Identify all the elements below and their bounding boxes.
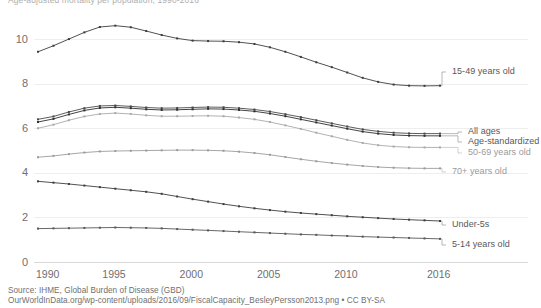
data-point[interactable] <box>114 226 116 228</box>
data-point[interactable] <box>253 152 255 154</box>
data-point[interactable] <box>362 165 364 167</box>
data-point[interactable] <box>362 142 364 144</box>
data-point[interactable] <box>176 149 178 151</box>
data-point[interactable] <box>83 109 85 111</box>
data-point[interactable] <box>114 106 116 108</box>
data-point[interactable] <box>284 113 286 115</box>
data-point[interactable] <box>37 228 39 230</box>
data-point[interactable] <box>408 237 410 239</box>
data-point[interactable] <box>362 131 364 133</box>
data-point[interactable] <box>68 119 70 121</box>
data-point[interactable] <box>130 150 132 152</box>
data-point[interactable] <box>253 109 255 111</box>
data-point[interactable] <box>37 156 39 158</box>
data-point[interactable] <box>68 111 70 113</box>
data-point[interactable] <box>99 150 101 152</box>
data-point[interactable] <box>114 188 116 190</box>
data-point[interactable] <box>83 115 85 117</box>
data-point[interactable] <box>83 227 85 229</box>
data-point[interactable] <box>408 85 410 87</box>
data-point[interactable] <box>207 229 209 231</box>
data-point[interactable] <box>145 30 147 32</box>
data-point[interactable] <box>315 234 317 236</box>
data-point[interactable] <box>424 167 426 169</box>
data-point[interactable] <box>253 43 255 45</box>
data-point[interactable] <box>408 132 410 134</box>
data-point[interactable] <box>269 111 271 113</box>
data-point[interactable] <box>192 229 194 231</box>
data-point[interactable] <box>424 135 426 137</box>
data-point[interactable] <box>253 110 255 112</box>
data-point[interactable] <box>99 105 101 107</box>
data-point[interactable] <box>377 81 379 83</box>
data-point[interactable] <box>238 41 240 43</box>
data-point[interactable] <box>207 40 209 42</box>
data-point[interactable] <box>68 227 70 229</box>
data-point[interactable] <box>377 217 379 219</box>
data-point[interactable] <box>192 115 194 117</box>
data-point[interactable] <box>393 218 395 220</box>
data-point[interactable] <box>114 25 116 27</box>
data-point[interactable] <box>331 122 333 124</box>
series-line[interactable] <box>38 227 440 238</box>
data-point[interactable] <box>300 128 302 130</box>
data-point[interactable] <box>37 127 39 129</box>
data-point[interactable] <box>315 61 317 63</box>
data-point[interactable] <box>439 167 441 169</box>
series-label[interactable]: 5-14 years old <box>452 239 510 249</box>
data-point[interactable] <box>377 130 379 132</box>
data-point[interactable] <box>346 128 348 130</box>
data-point[interactable] <box>192 108 194 110</box>
data-point[interactable] <box>393 134 395 136</box>
data-point[interactable] <box>223 230 225 232</box>
data-point[interactable] <box>145 150 147 152</box>
data-point[interactable] <box>284 156 286 158</box>
data-point[interactable] <box>238 109 240 111</box>
data-point[interactable] <box>207 115 209 117</box>
data-point[interactable] <box>68 38 70 40</box>
data-point[interactable] <box>130 227 132 229</box>
data-point[interactable] <box>52 124 54 126</box>
data-point[interactable] <box>269 232 271 234</box>
data-point[interactable] <box>176 195 178 197</box>
data-point[interactable] <box>439 85 441 87</box>
data-point[interactable] <box>161 107 163 109</box>
data-point[interactable] <box>300 56 302 58</box>
data-point[interactable] <box>114 112 116 114</box>
data-point[interactable] <box>37 121 39 123</box>
data-point[interactable] <box>346 235 348 237</box>
data-point[interactable] <box>207 149 209 151</box>
data-point[interactable] <box>238 151 240 153</box>
data-point[interactable] <box>99 26 101 28</box>
data-point[interactable] <box>284 115 286 117</box>
series-line[interactable] <box>38 150 440 168</box>
data-point[interactable] <box>331 66 333 68</box>
data-point[interactable] <box>52 45 54 47</box>
data-point[interactable] <box>424 85 426 87</box>
data-point[interactable] <box>207 201 209 203</box>
data-point[interactable] <box>207 106 209 108</box>
series-label[interactable]: Under-5s <box>452 219 489 229</box>
data-point[interactable] <box>362 128 364 130</box>
data-point[interactable] <box>393 237 395 239</box>
data-point[interactable] <box>439 220 441 222</box>
data-point[interactable] <box>99 227 101 229</box>
data-point[interactable] <box>114 105 116 107</box>
data-point[interactable] <box>269 113 271 115</box>
data-point[interactable] <box>52 115 54 117</box>
data-point[interactable] <box>300 116 302 118</box>
data-point[interactable] <box>223 115 225 117</box>
data-point[interactable] <box>161 34 163 36</box>
data-point[interactable] <box>223 150 225 152</box>
data-point[interactable] <box>315 160 317 162</box>
data-point[interactable] <box>331 125 333 127</box>
data-point[interactable] <box>52 155 54 157</box>
data-point[interactable] <box>346 164 348 166</box>
data-point[interactable] <box>238 107 240 109</box>
data-point[interactable] <box>377 166 379 168</box>
data-point[interactable] <box>346 125 348 127</box>
data-point[interactable] <box>315 213 317 215</box>
data-point[interactable] <box>130 113 132 115</box>
data-point[interactable] <box>223 203 225 205</box>
data-point[interactable] <box>130 189 132 191</box>
